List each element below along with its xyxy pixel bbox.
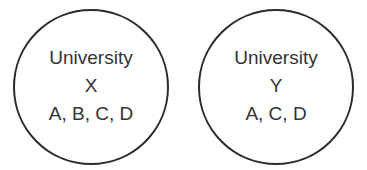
circle-title: University: [200, 47, 352, 69]
circle-id-label: Y: [200, 75, 352, 97]
circle-university-x: University X A, B, C, D: [13, 9, 169, 165]
university-set-diagram: University X A, B, C, D University Y A, …: [0, 0, 367, 170]
circle-members: A, B, C, D: [15, 103, 167, 125]
circle-university-y: University Y A, C, D: [198, 9, 354, 165]
circle-members: A, C, D: [200, 103, 352, 125]
circle-id-label: X: [15, 75, 167, 97]
circle-title: University: [15, 47, 167, 69]
